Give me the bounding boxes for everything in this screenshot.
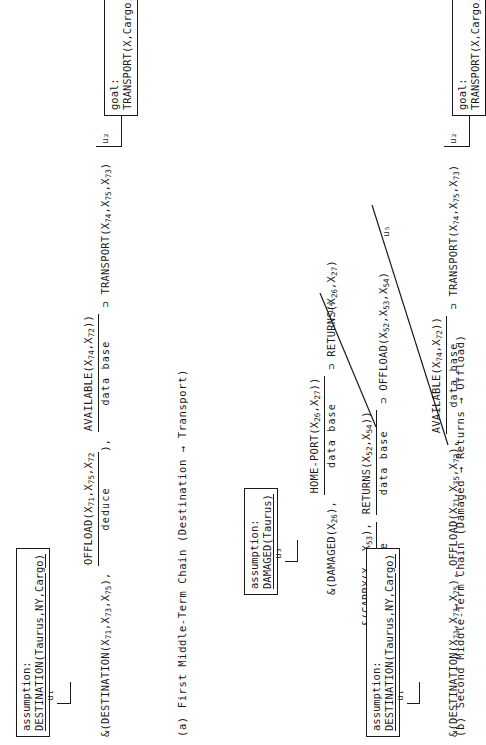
connector-u2-horizontal bbox=[121, 115, 122, 147]
assumption-box-destination-2: assumption: DESTINATION(Taurus,NY,Cargo) bbox=[366, 548, 400, 737]
panel-second-middle-term-chain: assumption: DAMAGED(Taurus) u₃ &(DAMAGED… bbox=[240, 0, 478, 745]
connector-b-u2-vertical bbox=[444, 146, 470, 147]
connector-label-b-u2: u₂ bbox=[447, 133, 458, 144]
clause-a-available-justification: data base bbox=[99, 314, 112, 432]
assumption-claim: DESTINATION(Taurus,NY,Cargo) bbox=[33, 554, 46, 731]
connector-label-u2: u₂ bbox=[99, 133, 110, 144]
goal-box-transport: goal: TRANSPORT(X,Cargo,NY) bbox=[104, 0, 138, 116]
goal2-tag: goal: bbox=[456, 0, 469, 110]
clause-a-offload-fraction: OFFLOAD(X71,X75,X72deduce bbox=[82, 452, 112, 566]
clause-a-consequent: ⊃ TRANSPORT(X74,X75,X73) bbox=[99, 163, 111, 314]
caption-a: (a)First Middle-Term Chain (Destination … bbox=[176, 369, 188, 737]
connector-b-u2-horizontal bbox=[469, 115, 470, 147]
caption-b-id: (b) bbox=[454, 716, 466, 737]
caption-a-text: First Middle-Term Chain (Destination → T… bbox=[176, 369, 188, 708]
clause-a-offload-justification: deduce bbox=[99, 452, 112, 566]
connector-label-u1: u₁ bbox=[44, 690, 55, 701]
assumption-destination2-claim: DESTINATION(Taurus,NY,Cargo) bbox=[383, 554, 396, 731]
clause-a-offload-atom: OFFLOAD(X71,X75,X72 bbox=[82, 452, 99, 566]
connector-label-b-u1: u₁ bbox=[394, 690, 405, 701]
connector-b-u1-horizontal bbox=[419, 682, 420, 704]
clause-line-a: &(DESTINATION(X71,X73,X75), OFFLOAD(X71,… bbox=[82, 163, 115, 737]
goal-tag: goal: bbox=[108, 0, 121, 110]
connector-u1-vertical bbox=[57, 703, 71, 704]
connector-u2-vertical bbox=[96, 146, 122, 147]
connector-u1-horizontal bbox=[70, 682, 71, 704]
clause-a-available-atom: AVAILABLE(X74,X72)) bbox=[82, 314, 99, 432]
clause-b3-consequent: ⊃ TRANSPORT(X74,X75,X73) bbox=[447, 165, 459, 316]
clause-b3-available-atom: AVAILABLE(X74,X72)) bbox=[430, 316, 447, 434]
assumption-tag: assumption: bbox=[20, 554, 33, 731]
goal2-claim: TRANSPORT(X,Cargo,NY) bbox=[469, 0, 482, 110]
clause-a-antecedent-1: &(DESTINATION(X71,X73,X75), bbox=[99, 566, 111, 737]
assumption-box-destination: assumption: DESTINATION(Taurus,NY,Cargo) bbox=[16, 548, 50, 737]
caption-b: (b)Second Middle-Term Chain (Damaged → R… bbox=[454, 334, 466, 737]
assumption-destination2-tag: assumption: bbox=[370, 554, 383, 731]
connector-label-u5: u₅ bbox=[380, 226, 391, 237]
caption-b-text: Second Middle-Term Chain (Damaged → Retu… bbox=[454, 334, 466, 708]
goal-claim: TRANSPORT(X,Cargo,NY) bbox=[121, 0, 134, 110]
clause-a-available-fraction: AVAILABLE(X74,X72))data base bbox=[82, 314, 112, 432]
panel-first-middle-term-chain: assumption: DESTINATION(Taurus,NY,Cargo)… bbox=[0, 0, 240, 745]
clause-a-sep-1: ), bbox=[99, 432, 111, 452]
goal-box-transport-2: goal: TRANSPORT(X,Cargo,NY) bbox=[452, 0, 486, 116]
caption-a-id: (a) bbox=[176, 716, 188, 737]
